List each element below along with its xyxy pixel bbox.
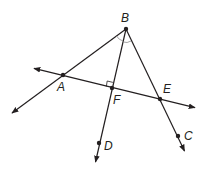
label-C: C [184, 129, 193, 143]
point-E [158, 97, 162, 101]
label-F: F [113, 93, 121, 107]
point-F [110, 86, 114, 90]
point-A [61, 73, 65, 77]
label-A: A [56, 80, 65, 94]
angle-arc-FBE [124, 41, 132, 43]
point-B [124, 27, 128, 31]
geometry-diagram: B A F E D C [0, 0, 205, 177]
point-D [97, 141, 101, 145]
label-E: E [163, 82, 172, 96]
label-D: D [104, 139, 113, 153]
angle-arc-ABF [117, 36, 124, 41]
point-C [176, 134, 180, 138]
ray-BA [12, 29, 126, 113]
ray-BC [126, 29, 185, 151]
label-B: B [121, 11, 129, 25]
